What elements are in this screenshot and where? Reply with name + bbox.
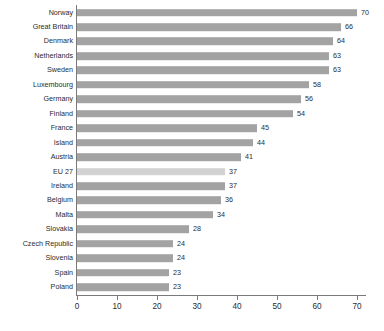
bar xyxy=(77,254,173,262)
bar-value-label: 37 xyxy=(229,182,237,190)
bar xyxy=(77,23,341,31)
bar-value-label: 36 xyxy=(225,196,233,204)
chart-row: Poland23 xyxy=(0,281,384,294)
bar-value-label: 34 xyxy=(217,211,225,219)
x-tick-label: 70 xyxy=(352,302,361,312)
bar-value-label: 45 xyxy=(261,124,269,132)
x-tick-mark xyxy=(237,296,238,300)
category-label: Slovakia xyxy=(46,225,73,233)
chart-rows: Norway70Great Britain66Denmark64Netherla… xyxy=(0,6,384,295)
chart-row: Sweden63 xyxy=(0,64,384,77)
bar xyxy=(77,269,169,277)
category-label: Slovenia xyxy=(45,254,73,262)
bar xyxy=(77,168,225,176)
category-label: Denmark xyxy=(44,37,73,45)
bar-value-label: 24 xyxy=(177,254,185,262)
category-label: Island xyxy=(54,139,73,147)
chart-row: Great Britain66 xyxy=(0,20,384,33)
bar xyxy=(77,283,169,291)
chart-row: Belgium36 xyxy=(0,194,384,207)
x-tick-label: 10 xyxy=(112,302,121,312)
bar-value-label: 63 xyxy=(333,52,341,60)
bar-value-label: 70 xyxy=(361,9,369,17)
x-tick-label: 60 xyxy=(312,302,321,312)
chart-row: Denmark64 xyxy=(0,35,384,48)
bar-value-label: 64 xyxy=(337,37,345,45)
x-axis-ticks: 010203040506070 xyxy=(0,295,384,315)
chart-row: Slovakia28 xyxy=(0,223,384,236)
chart-row: Finland54 xyxy=(0,107,384,120)
x-tick-mark xyxy=(197,296,198,300)
category-label: EU 27 xyxy=(53,168,73,176)
category-label: Luxembourg xyxy=(33,81,73,89)
bar-value-label: 28 xyxy=(193,225,201,233)
category-label: Great Britain xyxy=(33,23,73,31)
bar xyxy=(77,81,309,89)
bar-value-label: 23 xyxy=(173,269,181,277)
bar-value-label: 63 xyxy=(333,66,341,74)
category-label: Finland xyxy=(49,110,73,118)
bar-value-label: 54 xyxy=(297,110,305,118)
footnote xyxy=(14,322,374,331)
chart-row: Luxembourg58 xyxy=(0,78,384,91)
chart-row: Netherlands63 xyxy=(0,49,384,62)
bar xyxy=(77,95,301,103)
y-axis-line xyxy=(76,5,77,296)
bar xyxy=(77,124,257,132)
category-label: Poland xyxy=(51,283,73,291)
chart-row: Norway70 xyxy=(0,6,384,19)
bar-value-label: 66 xyxy=(345,23,353,31)
x-tick-label: 30 xyxy=(192,302,201,312)
bar-value-label: 41 xyxy=(245,153,253,161)
bar-chart: Norway70Great Britain66Denmark64Netherla… xyxy=(0,0,384,331)
bar-value-label: 23 xyxy=(173,283,181,291)
chart-row: France45 xyxy=(0,122,384,135)
chart-row: Island44 xyxy=(0,136,384,149)
category-label: Austria xyxy=(51,153,73,161)
bar-value-label: 44 xyxy=(257,139,265,147)
bar xyxy=(77,182,225,190)
bar xyxy=(77,240,173,248)
category-label: Belgium xyxy=(47,196,73,204)
category-label: Sweden xyxy=(47,66,73,74)
bar-value-label: 37 xyxy=(229,168,237,176)
chart-row: Austria41 xyxy=(0,151,384,164)
category-label: France xyxy=(51,124,73,132)
category-label: Czech Republic xyxy=(23,240,73,248)
x-tick-mark xyxy=(277,296,278,300)
chart-row: Slovenia24 xyxy=(0,252,384,265)
chart-row: Germany56 xyxy=(0,93,384,106)
bar-value-label: 56 xyxy=(305,95,313,103)
bar xyxy=(77,38,333,46)
x-tick-mark xyxy=(317,296,318,300)
bar xyxy=(77,197,221,205)
bar xyxy=(77,139,253,147)
chart-row: Malta34 xyxy=(0,208,384,221)
chart-row: Ireland37 xyxy=(0,179,384,192)
bar xyxy=(77,153,241,161)
chart-row: EU 2737 xyxy=(0,165,384,178)
category-label: Germany xyxy=(43,95,73,103)
category-label: Netherlands xyxy=(34,52,73,60)
category-label: Ireland xyxy=(51,182,73,190)
category-label: Norway xyxy=(49,9,73,17)
bar xyxy=(77,226,189,234)
x-tick-mark xyxy=(357,296,358,300)
x-tick-mark xyxy=(77,296,78,300)
x-tick-label: 20 xyxy=(152,302,161,312)
x-tick-mark xyxy=(157,296,158,300)
category-label: Malta xyxy=(55,211,73,219)
bar xyxy=(77,110,293,118)
chart-row: Czech Republic24 xyxy=(0,237,384,250)
bar xyxy=(77,9,357,17)
chart-row: Spain23 xyxy=(0,266,384,279)
bar xyxy=(77,211,213,219)
bar-value-label: 58 xyxy=(313,81,321,89)
bar xyxy=(77,52,329,60)
category-label: Spain xyxy=(55,269,73,277)
x-tick-mark xyxy=(117,296,118,300)
bar-value-label: 24 xyxy=(177,240,185,248)
x-tick-label: 50 xyxy=(272,302,281,312)
x-tick-label: 40 xyxy=(232,302,241,312)
x-tick-label: 0 xyxy=(75,302,80,312)
